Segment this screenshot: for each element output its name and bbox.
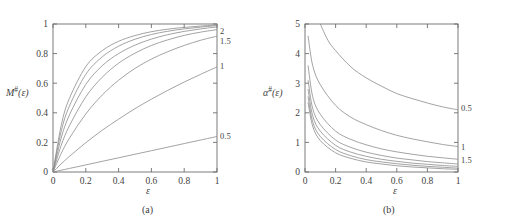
curve-label-1: 1 — [220, 61, 224, 71]
data-curve-unlabeled-1 — [308, 80, 458, 164]
x-tick-label: 0.8 — [178, 176, 190, 186]
panel-b: 00.20.40.60.810123450.511.5 α#(ε) ε (b) — [255, 0, 511, 223]
curves-group — [308, 24, 458, 169]
curve-label-1: 1 — [461, 142, 465, 152]
panel-b-y-axis-label: α#(ε) — [263, 86, 283, 98]
curve-label-2: 2 — [220, 26, 224, 36]
x-tick-label: 0.8 — [421, 176, 433, 186]
y-tick-label: 1 — [295, 138, 300, 148]
panel-b-x-axis-label: ε — [393, 186, 397, 196]
y-tick-label: 3 — [295, 79, 300, 89]
y-tick-label: 0.2 — [36, 138, 48, 148]
x-tick-label: 1 — [456, 176, 461, 186]
panel-b-plot-area: 00.20.40.60.810123450.511.5 — [255, 0, 511, 223]
data-curve-1 — [53, 67, 217, 172]
x-tick-label: 0.4 — [360, 176, 372, 186]
panel-b-caption: (b) — [383, 205, 395, 215]
data-curve-unlabeled-1 — [53, 27, 217, 172]
y-tick-label: 0.8 — [36, 49, 48, 59]
figure-container: 00.20.40.60.8100.20.40.60.8121.510.5 M#(… — [0, 0, 511, 223]
x-tick-label: 0.2 — [80, 176, 92, 186]
y-label-argument: (ε) — [18, 87, 29, 98]
x-tick-label: 1 — [215, 176, 220, 186]
data-curve-1.5 — [53, 36, 217, 172]
panel-a-y-axis-label: M#(ε) — [6, 86, 29, 98]
curve-label-0.5: 0.5 — [220, 131, 231, 141]
panel-a: 00.20.40.60.8100.20.40.60.8121.510.5 M#(… — [0, 0, 256, 223]
data-curve-0.5 — [53, 136, 217, 172]
y-tick-label: 0.6 — [36, 79, 48, 89]
curve-label-1.5: 1.5 — [220, 36, 231, 46]
data-curve-1 — [308, 36, 458, 147]
x-tick-label: 0 — [51, 176, 56, 186]
curves-group — [53, 25, 217, 172]
plot-frame — [305, 24, 458, 172]
y-tick-label: 2 — [295, 108, 300, 118]
data-curve-2 — [53, 30, 217, 172]
x-tick-label: 0.2 — [330, 176, 342, 186]
data-curve-unlabeled-2 — [308, 89, 458, 166]
y-label-argument: (ε) — [272, 87, 283, 98]
y-tick-label: 0.4 — [36, 108, 48, 118]
curve-label-1.5: 1.5 — [461, 155, 472, 165]
panel-a-plot-area: 00.20.40.60.8100.20.40.60.8121.510.5 — [0, 0, 256, 223]
y-tick-label: 0 — [295, 167, 300, 177]
y-tick-label: 1 — [43, 19, 48, 29]
data-curve-0.5 — [320, 24, 458, 110]
y-tick-label: 5 — [295, 19, 300, 29]
data-curve-1.5 — [308, 65, 458, 159]
y-tick-label: 0 — [43, 167, 48, 177]
panel-a-x-axis-label: ε — [146, 186, 150, 196]
x-tick-label: 0 — [303, 176, 308, 186]
x-tick-label: 0.4 — [113, 176, 125, 186]
panel-a-caption: (a) — [142, 205, 153, 215]
curve-label-0.5: 0.5 — [461, 103, 472, 113]
y-tick-label: 4 — [295, 49, 300, 59]
